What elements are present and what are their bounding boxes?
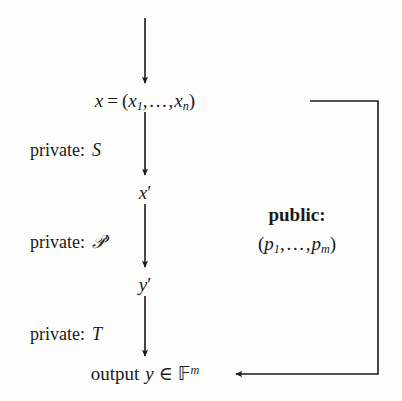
private-word: private: [30, 140, 85, 160]
math-p-first: p [264, 233, 274, 254]
math-p-last-index: m [321, 242, 330, 256]
private-word: private: [30, 324, 85, 344]
math-x: x [95, 90, 103, 111]
math-prime: ′ [147, 274, 151, 295]
output-word: output [91, 363, 140, 384]
math-rparen: ) [189, 90, 195, 111]
math-x-last: x [174, 90, 182, 111]
node-intermediate-yprime: y′ [139, 275, 152, 294]
math-member-icon: ∈ [159, 363, 173, 384]
math-y: y [145, 363, 153, 384]
node-output: outputy∈𝔽m [91, 364, 200, 383]
math-field-f: 𝔽 [178, 362, 191, 384]
math-prime: ′ [147, 182, 151, 203]
math-field-exponent: m [191, 363, 200, 377]
side-label-public: public: (p1,…,pm) [258, 205, 336, 253]
math-p-last: p [311, 233, 321, 254]
private-word: private: [30, 232, 85, 252]
public-value: (p1,…,pm) [258, 234, 336, 253]
math-sym-t: T [92, 324, 102, 344]
math-ellipsis: ,…, [280, 233, 312, 254]
public-heading: public: [268, 204, 325, 225]
edge-label-private-p: private:𝒫′ [30, 233, 109, 251]
math-prime: ′ [105, 232, 109, 252]
node-input-top: x=(x1,…,xn) [95, 91, 195, 110]
math-rparen: ) [330, 233, 336, 254]
math-x-first: x [128, 90, 136, 111]
math-sym-s: S [92, 140, 101, 160]
math-sym-p-script: 𝒫 [92, 231, 105, 252]
math-equals: = [107, 90, 118, 111]
edge-label-private-t: private:T [30, 325, 102, 343]
diagram-canvas: x=(x1,…,xn) x′ y′ outputy∈𝔽m private:S p… [0, 0, 402, 401]
math-ellipsis: ,…, [143, 90, 175, 111]
node-intermediate-xprime: x′ [139, 183, 152, 202]
edge-label-private-s: private:S [30, 141, 101, 159]
